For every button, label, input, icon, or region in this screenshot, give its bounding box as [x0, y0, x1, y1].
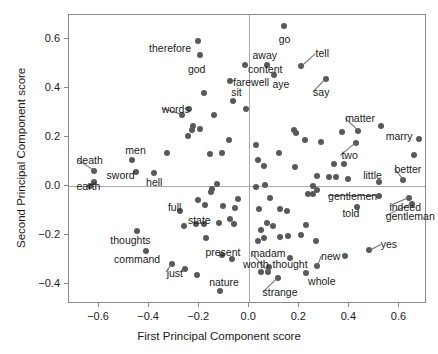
x-tick-label: 0.0: [241, 310, 256, 322]
point-label-earth: earth: [77, 181, 101, 192]
data-point[interactable]: [253, 184, 259, 190]
y-tick-mark: [64, 185, 68, 186]
data-point-men[interactable]: [129, 157, 135, 163]
data-point[interactable]: [207, 151, 213, 157]
point-label-hell: hell: [146, 177, 162, 188]
data-point[interactable]: [292, 164, 298, 170]
data-point[interactable]: [270, 223, 276, 229]
x-tick-mark: [248, 303, 249, 307]
data-point-nature[interactable]: [217, 288, 223, 294]
y-tick-mark: [64, 234, 68, 235]
data-point[interactable]: [258, 227, 264, 233]
x-tick-label: 0.4: [341, 310, 356, 322]
data-point[interactable]: [232, 205, 238, 211]
data-point[interactable]: [197, 126, 203, 132]
point-label-god: god: [188, 64, 206, 75]
data-point[interactable]: [345, 176, 351, 182]
data-point-marry[interactable]: [378, 123, 384, 129]
data-point[interactable]: [243, 106, 249, 112]
data-point[interactable]: [277, 206, 283, 212]
data-point[interactable]: [216, 220, 222, 226]
point-label-present: present: [205, 247, 240, 258]
y-tick-mark: [64, 38, 68, 39]
data-point[interactable]: [220, 203, 226, 209]
y-tick-label: 0.2: [45, 130, 60, 142]
point-label-state: state: [188, 215, 211, 226]
point-label-marry: marry: [386, 131, 413, 142]
x-tick-mark: [98, 303, 99, 307]
data-point-state[interactable]: [181, 223, 187, 229]
data-point-god[interactable]: [197, 52, 203, 58]
data-point[interactable]: [211, 112, 217, 118]
data-point[interactable]: [262, 182, 268, 188]
data-point[interactable]: [318, 139, 324, 145]
data-point[interactable]: [195, 197, 201, 203]
data-point[interactable]: [314, 173, 320, 179]
data-point[interactable]: [339, 129, 345, 135]
data-point[interactable]: [202, 202, 208, 208]
y-axis-label: Second Principal Component score: [15, 68, 27, 248]
data-point-therefore[interactable]: [195, 38, 201, 44]
x-tick-label: −0.2: [187, 310, 209, 322]
point-label-therefore: therefore: [149, 43, 191, 54]
data-point[interactable]: [298, 232, 304, 238]
data-point[interactable]: [341, 161, 347, 167]
point-label-told: told: [342, 208, 359, 219]
data-point-go[interactable]: [281, 23, 287, 29]
data-point[interactable]: [235, 196, 241, 202]
data-point[interactable]: [219, 150, 225, 156]
data-point[interactable]: [293, 130, 299, 136]
data-point[interactable]: [201, 90, 207, 96]
data-point[interactable]: [208, 189, 214, 195]
data-point[interactable]: [214, 181, 220, 187]
point-label-just: just: [167, 268, 183, 279]
data-point[interactable]: [276, 150, 282, 156]
data-point[interactable]: [164, 150, 170, 156]
data-point[interactable]: [256, 206, 262, 212]
data-point-sit[interactable]: [230, 98, 236, 104]
data-point[interactable]: [302, 137, 308, 143]
data-point[interactable]: [261, 235, 267, 241]
data-point[interactable]: [194, 272, 200, 278]
y-tick-label: 0.0: [45, 179, 60, 191]
zero-horizontal-reference-line: [69, 186, 425, 187]
point-label-sit: sit: [231, 87, 242, 98]
data-point[interactable]: [285, 233, 291, 239]
point-label-little: little: [363, 170, 382, 181]
data-point[interactable]: [261, 163, 267, 169]
data-point[interactable]: [189, 127, 195, 133]
point-label-matter: matter: [345, 113, 375, 124]
y-tick-mark: [64, 136, 68, 137]
point-label-say: say: [313, 87, 329, 98]
data-point[interactable]: [185, 133, 191, 139]
data-point[interactable]: [284, 208, 290, 214]
data-point[interactable]: [313, 238, 319, 244]
point-label-sword: sword: [107, 170, 135, 181]
data-point[interactable]: [342, 253, 348, 259]
data-point[interactable]: [255, 157, 261, 163]
data-point[interactable]: [411, 152, 417, 158]
x-tick-label: −0.6: [87, 310, 109, 322]
point-label-worth: worth: [243, 259, 269, 270]
data-point[interactable]: [231, 221, 237, 227]
point-label-better: better: [394, 164, 421, 175]
data-point[interactable]: [331, 161, 337, 167]
data-point[interactable]: [303, 222, 309, 228]
y-tick-label: −0.4: [38, 277, 60, 289]
x-tick-label: 0.6: [391, 310, 406, 322]
point-label-madam: madam: [251, 248, 286, 259]
data-point[interactable]: [255, 238, 261, 244]
data-point[interactable]: [203, 235, 209, 241]
data-point[interactable]: [310, 191, 316, 197]
data-point[interactable]: [226, 137, 232, 143]
data-point[interactable]: [416, 136, 422, 142]
x-tick-mark: [398, 303, 399, 307]
point-label-death: death: [77, 155, 103, 166]
data-point[interactable]: [277, 234, 283, 240]
data-point[interactable]: [333, 174, 339, 180]
point-label-yes: yes: [381, 239, 397, 250]
point-label-strange: strange: [263, 287, 298, 298]
data-point[interactable]: [253, 142, 259, 148]
data-point[interactable]: [267, 195, 273, 201]
data-point[interactable]: [326, 174, 332, 180]
